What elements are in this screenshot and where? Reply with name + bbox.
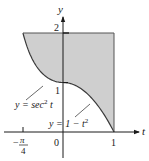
y-axis-label: y <box>57 3 63 15</box>
four-denominator: 4 <box>21 146 26 156</box>
pi-numerator: π <box>20 135 25 145</box>
t-tick-label-1: 1 <box>111 137 116 148</box>
origin-label: 0 <box>54 137 59 148</box>
parab-leader-line <box>75 104 90 117</box>
y-tick-label-1: 1 <box>55 85 60 96</box>
t-axis-label: t <box>142 125 146 137</box>
neg-sign: − <box>13 137 19 148</box>
y-tick-label-2: 2 <box>54 22 59 33</box>
sec-curve-label: y = sec2 t <box>14 98 53 110</box>
region-diagram: y t 2 1 0 1 − π 4 y = sec2 t y = 1 − t2 <box>0 0 149 161</box>
parab-curve-label: y = 1 − t2 <box>48 117 89 129</box>
sec-leader-line <box>26 86 43 100</box>
